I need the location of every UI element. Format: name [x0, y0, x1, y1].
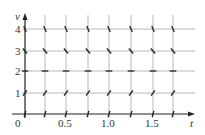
x-tick-0-5: 0.5	[58, 117, 72, 129]
y-axis-arrow-icon	[23, 13, 28, 20]
x-axis-arrow-icon	[188, 112, 195, 117]
slope-field-plot: v t 4 3 2 1 0 0.5 1.0 1.5	[0, 0, 205, 135]
y-tick-2: 2	[15, 65, 21, 77]
y-tick-4: 4	[15, 23, 21, 35]
grid-lines	[22, 15, 195, 118]
x-axis-label: t	[190, 117, 194, 129]
x-tick-1-5: 1.5	[145, 117, 159, 129]
y-tick-3: 3	[15, 45, 21, 57]
x-tick-1-0: 1.0	[101, 117, 115, 129]
y-tick-1: 1	[15, 87, 21, 99]
x-tick-0: 0	[15, 117, 21, 129]
y-axis-label: v	[15, 10, 20, 22]
